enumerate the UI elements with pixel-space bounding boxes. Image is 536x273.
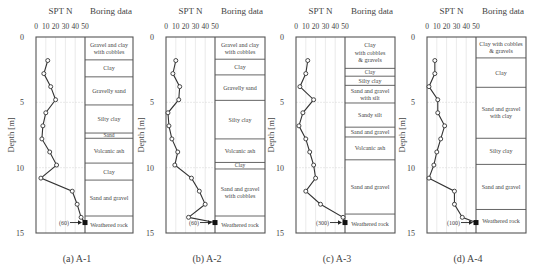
- spt-point: [297, 124, 301, 128]
- layer-label: Weathered rock: [482, 218, 520, 224]
- boring-data-title: Boring data: [90, 6, 132, 16]
- spt-point: [304, 72, 308, 76]
- spt-point: [177, 98, 181, 102]
- y-tick-label: 5: [411, 98, 415, 107]
- y-tick-label: 10: [276, 164, 284, 173]
- layer-label: Gravel and clay: [90, 42, 128, 48]
- layer-label: Clay: [495, 70, 506, 76]
- boring-data-title: Boring data: [221, 6, 263, 16]
- spt-point: [46, 59, 50, 63]
- layer-label: Clay with cobbles: [479, 41, 523, 47]
- spt-point: [319, 202, 323, 206]
- spt-point: [55, 163, 59, 167]
- spt-point: [176, 150, 180, 154]
- x-tick-label: 0: [34, 22, 38, 31]
- x-tick-label: 0: [294, 22, 298, 31]
- boring-data-title: Boring data: [351, 6, 393, 16]
- y-tick-label: 0: [150, 33, 154, 42]
- refusal-marker: [213, 220, 218, 225]
- y-tick-label: 15: [146, 229, 154, 238]
- x-tick-label: 0: [164, 22, 168, 31]
- spt-axis-title: SPT N: [178, 6, 203, 16]
- layer-label: Sand and gravel: [482, 184, 521, 190]
- layer-label: Weathered rock: [351, 221, 389, 227]
- y-tick-label: 10: [146, 164, 154, 173]
- spt-point: [40, 137, 44, 141]
- layer-label: Gravelly sand: [223, 85, 257, 91]
- chart-canvas: SPT NBoring data01020304050051015Depth […: [0, 0, 536, 273]
- spt-point: [312, 163, 316, 167]
- layer-label: with cobbles: [225, 49, 256, 55]
- y-tick-label: 15: [16, 229, 24, 238]
- refusal-marker: [83, 220, 88, 225]
- y-tick-label: 10: [407, 164, 415, 173]
- spt-line: [429, 61, 476, 223]
- layer-label: with clay: [490, 113, 512, 119]
- x-tick-label: 50: [472, 22, 480, 31]
- boring-data-title: Boring data: [482, 6, 524, 16]
- panel-caption: (c) A-3: [323, 253, 352, 265]
- layer-label: Clay: [103, 65, 114, 71]
- y-tick-label: 15: [407, 229, 415, 238]
- spt-point: [443, 124, 447, 128]
- spt-point: [308, 150, 312, 154]
- spt-point: [173, 163, 177, 167]
- spt-point: [452, 202, 456, 206]
- layer-label: Silty clay: [359, 78, 382, 84]
- x-tick-label: 30: [192, 22, 200, 31]
- layer-label: with cobbles: [225, 193, 256, 199]
- spt-line: [41, 61, 85, 223]
- spt-point: [304, 137, 308, 141]
- refusal-value-label: (60): [59, 220, 69, 227]
- y-tick-label: 5: [20, 98, 24, 107]
- spt-point: [197, 189, 201, 193]
- layer-label: Sand: [104, 132, 115, 138]
- layer-label: Sand and gravel: [482, 106, 521, 112]
- layer-label: Weathered rock: [90, 222, 128, 228]
- spt-point: [435, 150, 439, 154]
- depth-axis-label: Depth [m]: [266, 117, 276, 152]
- layer-label: Sand and gravel: [351, 129, 390, 135]
- spt-point: [460, 215, 464, 219]
- x-tick-label: 20: [52, 22, 60, 31]
- layer-label: Sand and gravel: [90, 195, 129, 201]
- x-tick-label: 10: [433, 22, 441, 31]
- spt-point: [452, 189, 456, 193]
- spt-point: [314, 176, 318, 180]
- spt-point: [436, 111, 440, 115]
- depth-axis-label: Depth [m]: [136, 117, 146, 152]
- layer-label: Silty clay: [98, 116, 121, 122]
- spt-point: [433, 72, 437, 76]
- layer-label: Volcanic ash: [225, 148, 255, 154]
- spt-point: [54, 98, 58, 102]
- panel-4: SPT NBoring data01020304050051015Depth […: [397, 6, 526, 265]
- panel-caption: (b) A-2: [192, 253, 221, 265]
- layer-label: Clay: [364, 42, 375, 48]
- spt-point: [42, 72, 46, 76]
- panel-3: SPT NBoring data01020304050051015Depth […: [266, 6, 395, 265]
- spt-point: [203, 202, 207, 206]
- layer-label: Clay: [103, 169, 114, 175]
- y-tick-label: 0: [411, 33, 415, 42]
- spt-point: [306, 59, 310, 63]
- layer-label: Weathered rock: [221, 222, 259, 228]
- spt-point: [304, 189, 308, 193]
- layer-label: Gravelly sand: [92, 88, 126, 94]
- x-tick-label: 40: [71, 22, 79, 31]
- spt-point: [167, 124, 171, 128]
- x-tick-label: 50: [81, 22, 89, 31]
- refusal-marker: [343, 220, 348, 225]
- panel-1: SPT NBoring data01020304050051015Depth […: [6, 6, 133, 265]
- layer-label: & gravels: [489, 48, 513, 54]
- spt-point: [432, 163, 436, 167]
- spt-point: [187, 215, 191, 219]
- spt-point: [48, 150, 52, 154]
- layer-label: Clay: [235, 162, 246, 168]
- spt-point: [70, 189, 74, 193]
- layer-label: Volcanic ash: [94, 148, 124, 154]
- y-tick-label: 0: [20, 33, 24, 42]
- x-tick-label: 20: [182, 22, 190, 31]
- x-tick-label: 10: [302, 22, 310, 31]
- spt-point: [49, 85, 53, 89]
- depth-axis-label: Depth [m]: [397, 117, 407, 152]
